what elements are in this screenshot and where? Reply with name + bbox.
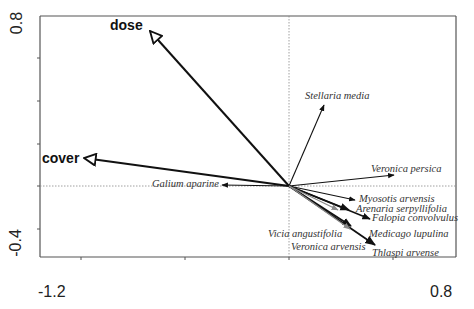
x-tick-label-left: -1.2 — [38, 283, 66, 301]
label-veronica-arvensis: Veronica arvensis — [291, 241, 366, 252]
arrow-veronica-persica — [289, 175, 394, 186]
label-thlaspi-arvense: Thlaspi arvense — [372, 247, 439, 258]
label-stellaria-media: Stellaria media — [305, 90, 369, 101]
arrow-stellaria-media — [289, 105, 324, 186]
label-dose: dose — [110, 17, 143, 33]
y-tick-label-bottom: -0.4 — [7, 229, 25, 257]
label-medicago-lupulina: Medicago lupulina — [369, 228, 449, 239]
label-vicia-angustifolia: Vicia angustifolia — [268, 228, 342, 239]
arrow-vicia-angustifolia — [289, 186, 338, 210]
label-veronica-persica: Veronica persica — [371, 163, 441, 174]
y-tick-label-top: 0.8 — [8, 12, 26, 34]
x-tick-label-right: 0.8 — [430, 283, 452, 301]
arrow-dose — [150, 31, 289, 186]
environmental-arrows — [84, 31, 289, 186]
label-falopia-convolvulus: Falopia convolvulus — [372, 212, 458, 223]
label-cover: cover — [42, 150, 79, 166]
label-galium-aparine: Galium aparine — [152, 178, 219, 189]
species-arrows — [222, 105, 394, 245]
